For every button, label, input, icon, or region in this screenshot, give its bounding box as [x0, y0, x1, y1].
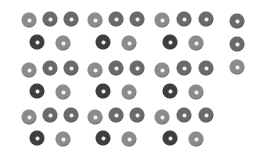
donut-ring-icon [199, 108, 214, 123]
donut-ring-icon [109, 108, 124, 123]
donut-ring-icon [189, 36, 204, 51]
donut-ring-icon [43, 61, 58, 76]
donut-ring-icon [177, 108, 192, 123]
donut-ring-icon [96, 131, 111, 146]
donut-ring-icon [155, 13, 170, 28]
donut-ring-icon [199, 61, 214, 76]
donut-ring-icon [155, 110, 170, 125]
donut-ring-icon [177, 61, 192, 76]
donut-ring-icon [64, 12, 79, 27]
donut-ring-icon [43, 108, 58, 123]
donut-ring-icon [56, 85, 71, 100]
donut-ring-icon [88, 63, 103, 78]
donut-ring-icon [199, 12, 214, 27]
donut-ring-icon [22, 13, 37, 28]
donut-ring-icon [43, 12, 58, 27]
donut-ring-icon [122, 85, 137, 100]
donut-ring-icon [130, 61, 145, 76]
donut-ring-icon [155, 63, 170, 78]
donut-ring-icon [130, 108, 145, 123]
donut-ring-icon [189, 132, 204, 147]
donut-ring-icon [56, 36, 71, 51]
donut-ring-icon [130, 12, 145, 27]
donut-ring-icon [189, 85, 204, 100]
donut-ring-icon [109, 12, 124, 27]
donut-ring-icon [96, 84, 111, 99]
donut-ring-icon [96, 35, 111, 50]
donut-ring-icon [88, 110, 103, 125]
donut-ring-icon [88, 13, 103, 28]
donut-ring-icon [22, 63, 37, 78]
donut-ring-icon [177, 12, 192, 27]
donut-ring-icon [230, 60, 245, 75]
donut-ring-icon [30, 35, 45, 50]
donut-ring-icon [109, 61, 124, 76]
donut-ring-icon [122, 36, 137, 51]
donut-ring-icon [122, 132, 137, 147]
donut-ring-icon [30, 131, 45, 146]
donut-ring-icon [163, 35, 178, 50]
donut-ring-icon [163, 131, 178, 146]
donut-ring-icon [64, 61, 79, 76]
donut-ring-icon [64, 108, 79, 123]
donut-ring-icon [56, 132, 71, 147]
donut-ring-icon [163, 84, 178, 99]
donut-ring-icon [230, 37, 245, 52]
donut-ring-icon [230, 14, 245, 29]
donut-ring-icon [30, 84, 45, 99]
donut-ring-icon [22, 110, 37, 125]
